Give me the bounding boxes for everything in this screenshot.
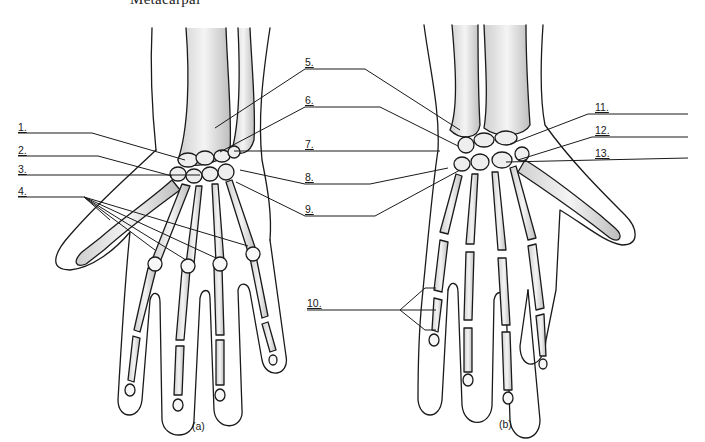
label-12: 12. [595, 124, 610, 136]
label-7: 7. [305, 138, 314, 150]
hand-view-a [56, 28, 287, 435]
view-label-a: (a) [192, 420, 205, 432]
label-9: 9. [305, 203, 314, 215]
label-3: 3. [18, 163, 27, 175]
diagram-art [0, 0, 705, 442]
label-11: 11. [595, 101, 609, 113]
label-8: 8. [305, 171, 314, 183]
label-4: 4. [18, 185, 27, 197]
label-5: 5. [305, 56, 314, 68]
label-1: 1. [18, 121, 27, 133]
hand-view-b [418, 25, 635, 438]
hand-bones-diagram: Metacarpal [0, 0, 705, 442]
label-6: 6. [305, 94, 314, 106]
leader-lines [18, 69, 688, 330]
label-10: 10. [307, 297, 322, 309]
label-13: 13. [595, 147, 610, 159]
label-2: 2. [18, 144, 27, 156]
view-label-b: (b) [499, 418, 512, 430]
